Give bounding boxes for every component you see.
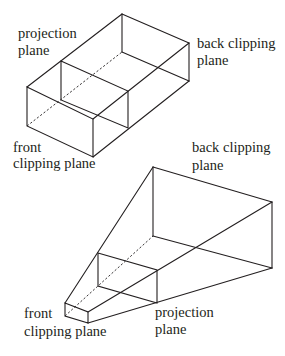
- view-volume-diagram: projection plane back clipping plane fro…: [0, 0, 285, 356]
- frustum-projection-plane-label-line2: plane: [155, 321, 186, 337]
- box-front-clipping-label-line2: clipping plane: [13, 155, 96, 171]
- perspective-view-volume: [65, 167, 272, 323]
- box-top-right-edge: [93, 43, 189, 119]
- frustum-top-left-edge: [65, 167, 153, 303]
- frustum-hidden-bottom-left-edge: [65, 236, 153, 316]
- box-projection-plane-label-line1: projection: [18, 25, 78, 41]
- frustum-back-clipping-label-line1: back clipping: [192, 139, 271, 155]
- box-back-bottom-edge: [122, 52, 189, 81]
- frustum-back-bottom-edge: [153, 236, 272, 268]
- frustum-projection-plane-label-line1: projection: [155, 304, 215, 320]
- labels: projection plane back clipping plane fro…: [13, 25, 276, 339]
- box-projection-plane-label-line2: plane: [18, 42, 49, 58]
- box-hidden-bottom-left-edge: [27, 52, 122, 126]
- frustum-back-clipping-label-line2: plane: [192, 157, 223, 173]
- frustum-front-clipping-label-line2: clipping plane: [24, 323, 107, 339]
- box-front-clipping-label-line1: front: [13, 139, 41, 155]
- frustum-front-clipping-label-line1: front: [24, 305, 52, 321]
- box-back-clipping-label-line2: plane: [197, 52, 228, 68]
- box-back-clipping-label-line1: back clipping: [197, 35, 276, 51]
- box-top-back-edge: [122, 14, 189, 43]
